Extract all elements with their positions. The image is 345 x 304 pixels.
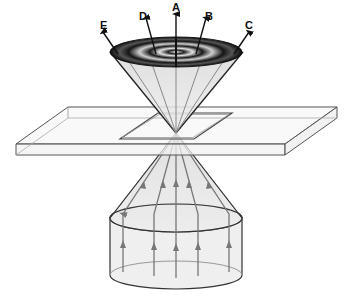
label-c: C (245, 19, 253, 31)
label-e: E (100, 19, 107, 31)
label-a: A (172, 1, 180, 13)
label-d: D (139, 10, 147, 22)
label-b: B (205, 10, 213, 22)
conoscopy-diagram: A B C D E (0, 0, 345, 304)
